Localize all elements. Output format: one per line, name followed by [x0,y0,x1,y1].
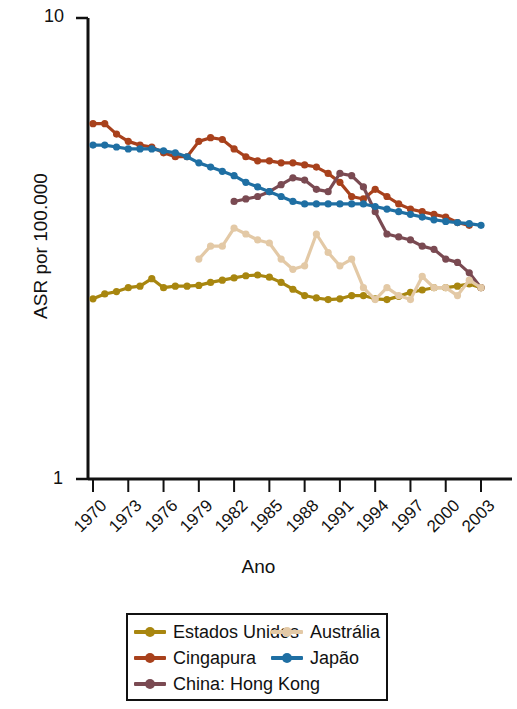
legend-label: Austrália [310,623,380,641]
data-point [348,200,355,207]
legend-item[interactable]: Japão [271,645,380,671]
data-point [336,295,343,302]
data-point [407,211,414,218]
y-axis-tick-bottom: 1 [53,468,63,489]
data-point [207,279,214,286]
data-point [360,284,367,291]
data-point [419,213,426,220]
data-point [230,274,237,281]
data-point [289,198,296,205]
data-point [89,295,96,302]
data-point [313,200,320,207]
data-point [454,219,461,226]
data-point [172,283,179,290]
data-point [395,200,402,207]
data-point [395,292,402,299]
data-point [266,157,273,164]
data-point [136,283,143,290]
data-point [242,195,249,202]
data-point [336,200,343,207]
series-1 [89,120,472,229]
legend-item[interactable]: Austrália [271,619,380,645]
data-point [113,130,120,137]
data-point [348,172,355,179]
data-point [301,292,308,299]
data-point [195,138,202,145]
data-point [383,206,390,213]
data-point [383,284,390,291]
data-point [242,153,249,160]
data-point [325,296,332,303]
chart-legend: Estados UnidosCingapuraChina: Hong Kong … [126,613,388,701]
data-point [160,147,167,154]
data-point [336,170,343,177]
legend-color-swatch [271,652,303,664]
data-point [407,236,414,243]
legend-label: Cingapura [173,649,256,667]
series-3 [195,225,484,304]
data-point [101,290,108,297]
data-point [477,284,484,291]
data-point [254,193,261,200]
data-point [195,282,202,289]
legend-dot-marker [282,653,292,663]
data-point [395,208,402,215]
data-point [477,222,484,229]
data-point [289,174,296,181]
data-point [301,177,308,184]
data-point [230,145,237,152]
data-point [313,294,320,301]
legend-dot-marker [145,653,155,663]
data-point [125,138,132,145]
data-point [289,266,296,273]
data-point [230,198,237,205]
data-point [313,186,320,193]
legend-color-swatch [134,652,166,664]
data-point [254,271,261,278]
data-point [395,233,402,240]
data-point [195,159,202,166]
data-point [183,283,190,290]
data-point [325,170,332,177]
data-point [219,277,226,284]
data-point [360,292,367,299]
data-point [254,157,261,164]
data-point [278,255,285,262]
data-point [301,200,308,207]
data-point [383,296,390,303]
data-point [407,296,414,303]
data-point [313,163,320,170]
data-point [160,284,167,291]
legend-dot-marker [282,627,292,637]
legend-column-right: AustráliaJapão [271,619,380,671]
data-point [348,193,355,200]
data-point [325,188,332,195]
data-point [466,220,473,227]
legend-label: Japão [310,649,359,667]
data-point [454,292,461,299]
data-point [278,193,285,200]
data-point [242,272,249,279]
legend-color-swatch [134,626,166,638]
chart-figure: 10 1 ASR por 100.000 Ano 197019731976197… [0,0,517,709]
legend-item[interactable]: China: Hong Kong [134,671,320,697]
data-point [136,145,143,152]
data-point [113,143,120,150]
legend-color-swatch [271,626,303,638]
data-point [278,181,285,188]
x-axis-title: Ano [0,556,517,578]
data-point [195,255,202,262]
data-point [289,159,296,166]
data-point [419,286,426,293]
data-point [442,284,449,291]
data-point [466,277,473,284]
data-point [372,296,379,303]
data-point [278,279,285,286]
data-point [101,142,108,149]
data-point [219,136,226,143]
data-point [383,230,390,237]
axis-lines [76,18,512,479]
data-point [383,193,390,200]
data-point [230,225,237,232]
data-point [278,159,285,166]
